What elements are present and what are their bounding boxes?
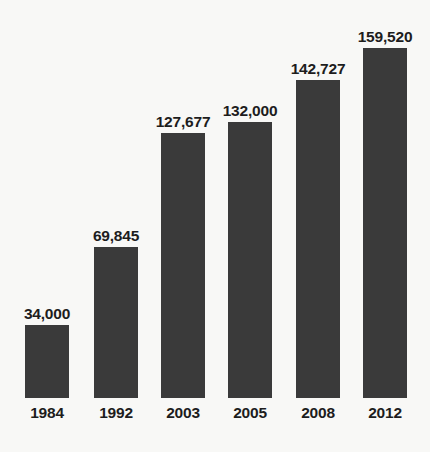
bar-category-label: 2008 [301,405,335,421]
bar-value-label: 142,727 [291,61,346,77]
bar-group: 132,000 2005 [228,122,272,398]
bar-group: 127,677 2003 [161,133,205,398]
bar-value-label: 127,677 [156,114,211,130]
bar-rect [363,48,407,398]
bar-category-label: 1984 [30,405,64,421]
bar-value-label: 159,520 [358,29,413,45]
bar-value-label: 69,845 [93,228,139,244]
bar-rect [228,122,272,398]
bar-value-label: 34,000 [24,306,70,322]
bar-category-label: 2005 [233,405,267,421]
bar-rect [25,325,69,398]
bar-rect [296,80,340,398]
chart-plot-area: 34,000 1984 69,845 1992 127,677 2003 132… [0,0,430,452]
bar-category-label: 1992 [99,405,133,421]
bar-category-label: 2003 [166,405,200,421]
bar-group: 159,520 2012 [363,48,407,398]
bar-category-label: 2012 [368,405,402,421]
bar-group: 34,000 1984 [25,325,69,398]
bar-group: 69,845 1992 [94,247,138,398]
bar-group: 142,727 2008 [296,80,340,398]
bar-rect [161,133,205,398]
bar-chart: 34,000 1984 69,845 1992 127,677 2003 132… [0,0,430,452]
bar-rect [94,247,138,398]
bar-value-label: 132,000 [223,103,278,119]
